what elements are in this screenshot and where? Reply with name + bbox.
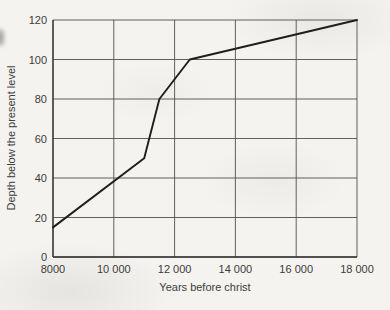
y-tick-label: 40 bbox=[35, 172, 47, 184]
x-tick-label: 14 000 bbox=[219, 263, 253, 275]
y-tick-label: 100 bbox=[29, 54, 47, 66]
x-tick-label: 16 000 bbox=[279, 263, 313, 275]
y-tick-label: 0 bbox=[41, 251, 47, 263]
plot-area: 800010 00012 00014 00016 00018 000020406… bbox=[29, 14, 374, 275]
scanned-chart-page: 800010 00012 00014 00016 00018 000020406… bbox=[0, 0, 390, 310]
y-tick-label: 120 bbox=[29, 14, 47, 26]
x-tick-label: 8000 bbox=[41, 263, 65, 275]
y-axis-title: Depth below the present level bbox=[5, 66, 17, 211]
line-chart: 800010 00012 00014 00016 00018 000020406… bbox=[0, 0, 390, 310]
x-tick-label: 12 000 bbox=[158, 263, 192, 275]
x-tick-label: 18 000 bbox=[340, 263, 374, 275]
x-tick-label: 10 000 bbox=[97, 263, 131, 275]
y-tick-label: 80 bbox=[35, 93, 47, 105]
y-tick-label: 60 bbox=[35, 133, 47, 145]
data-line bbox=[53, 20, 357, 227]
y-tick-label: 20 bbox=[35, 212, 47, 224]
x-axis-title: Years before christ bbox=[159, 281, 250, 293]
